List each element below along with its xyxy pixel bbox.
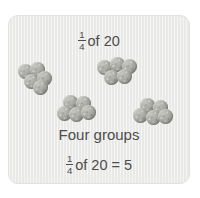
result-fraction-denominator: 4 [66, 166, 73, 176]
bead [117, 69, 132, 84]
result-expression: 1 4 of 20 = 5 [9, 154, 189, 176]
bead-group-2 [97, 57, 145, 91]
result-expression-text: of 20 = 5 [75, 157, 132, 173]
title-fraction-numerator: 1 [78, 30, 85, 40]
result-fraction-numerator: 1 [66, 154, 73, 164]
caption-text: Four groups [9, 127, 189, 142]
bead [33, 80, 48, 95]
result-fraction: 1 4 [66, 154, 73, 176]
bead-group-1 [18, 62, 66, 96]
bead-group-3 [57, 95, 105, 129]
title-fraction: 1 4 [78, 30, 85, 52]
page-root: 1 4 of 20 [0, 0, 200, 198]
title-expression: 1 4 of 20 [9, 30, 189, 52]
title-expression-text: of 20 [88, 33, 120, 49]
bead [158, 109, 173, 124]
bead [81, 105, 96, 120]
title-fraction-denominator: 4 [78, 42, 85, 52]
fraction-lesson-card: 1 4 of 20 [8, 15, 190, 184]
